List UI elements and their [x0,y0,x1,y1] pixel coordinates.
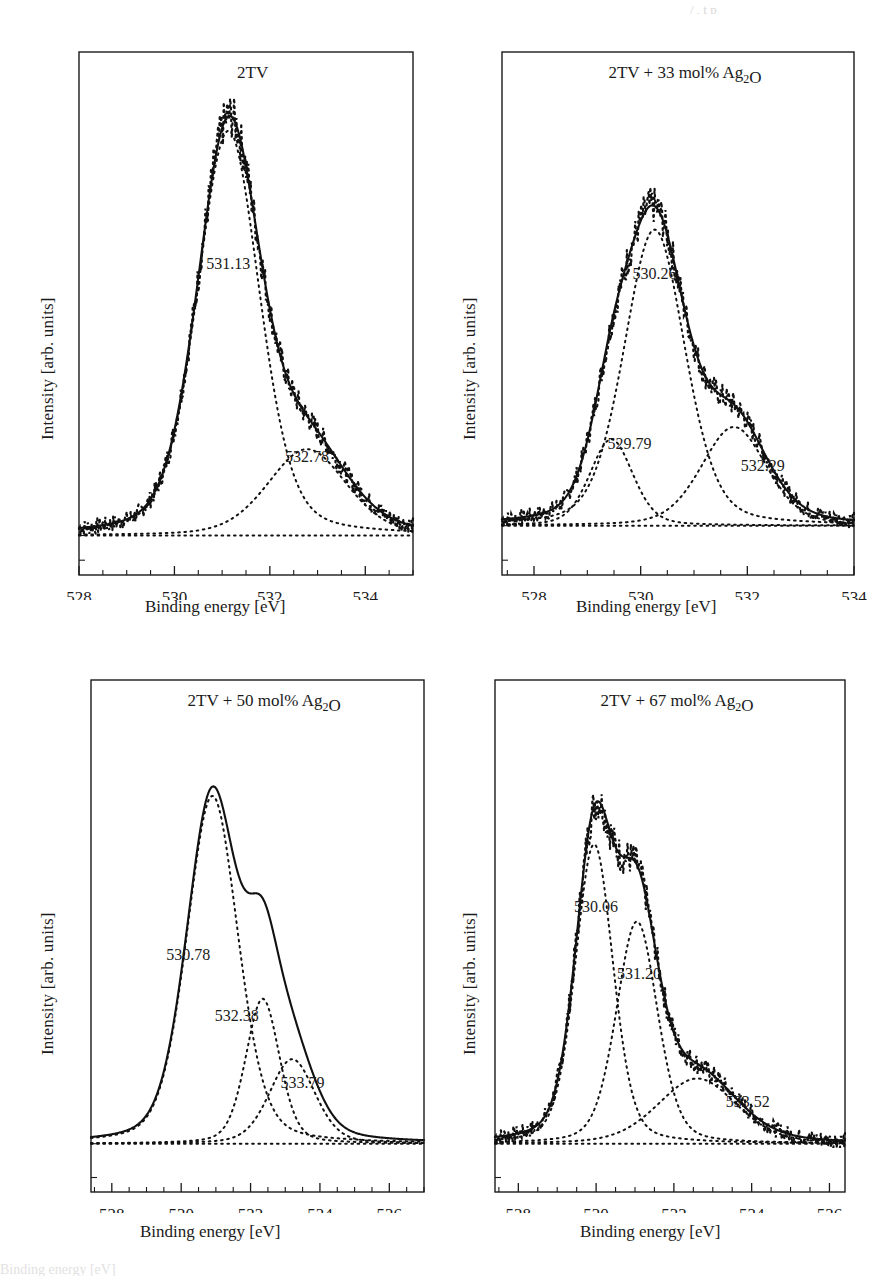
x-tick-label: 530 [168,1205,194,1213]
x-tick-label: 530 [583,1205,609,1213]
plot-frame [79,52,413,575]
plot-frame [502,52,854,575]
top-cropped-text: / , t p [690,2,890,14]
x-tick-label: 534 [841,588,867,600]
raw-data-trace [495,794,845,1148]
x-tick-label: 528 [66,588,92,600]
peak-label-2: 532.78 [285,448,329,465]
plot-frame [91,680,424,1192]
peak-label-1: 530.78 [166,946,210,963]
peak-label-2: 529.79 [607,435,651,452]
fit-envelope [91,786,424,1140]
x-tick-label: 534 [353,588,379,600]
peak-label-3: 532.29 [741,457,785,474]
peak-label-1: 530.26 [633,265,677,282]
panel-2tv-33: 5285305325342TV + 33 mol% Ag2O530.26529.… [440,40,880,600]
panel-2tv-67: 5285305325345362TV + 67 mol% Ag2O530.065… [440,668,880,1213]
panel-title: 2TV + 50 mol% Ag2O [188,691,341,715]
x-tick-label: 528 [521,588,547,600]
x-tick-label: 534 [307,1205,333,1213]
panel-3-ylabel: Intensity [arb. units] [38,912,58,1055]
panel-1-plot: 5285305325342TV531.13532.78 [18,40,428,600]
fit-component-1 [91,796,424,1142]
panel-4-xlabel: Binding energy [eV] [580,1222,720,1242]
bottom-cropped-caption: Binding energy [eV] [0,1262,500,1276]
panel-2tv: 5285305325342TV531.13532.78 [18,40,428,600]
fit-component-3 [91,1059,424,1143]
panel-2tv-50: 5285305325345362TV + 50 mol% Ag2O530.785… [18,668,428,1213]
panel-title: 2TV + 67 mol% Ag2O [600,691,753,715]
x-tick-label: 532 [735,588,761,600]
panel-3-xlabel: Binding energy [eV] [140,1222,280,1242]
panel-4-ylabel: Intensity [arb. units] [460,912,480,1055]
peak-label-3: 533.79 [281,1074,325,1091]
panel-2-ylabel: Intensity [arb. units] [460,297,480,440]
panel-title: 2TV + 33 mol% Ag2O [608,63,761,87]
panel-title: 2TV [237,63,269,82]
x-tick-label: 536 [377,1205,403,1213]
fit-envelope [495,801,845,1140]
x-tick-label: 536 [817,1205,843,1213]
fit-envelope [502,205,854,520]
xps-figure: / , t p 5285305325342TV531.13532.78 Inte… [0,0,894,1276]
panel-4-plot: 5285305325345362TV + 67 mol% Ag2O530.065… [440,668,880,1213]
peak-label-2: 532.38 [215,1007,259,1024]
fit-component-1 [79,131,413,531]
x-tick-label: 528 [506,1205,531,1213]
peak-label-1: 530.06 [574,898,618,915]
panel-1-ylabel: Intensity [arb. units] [38,297,58,440]
peak-label-1: 531.13 [206,255,250,272]
panel-3-plot: 5285305325345362TV + 50 mol% Ag2O530.785… [18,668,428,1213]
fit-component-1 [495,844,845,1143]
x-tick-label: 528 [99,1205,125,1213]
fit-component-2 [79,449,413,534]
x-tick-label: 532 [661,1205,687,1213]
peak-label-3: 533.52 [726,1093,770,1110]
panel-1-xlabel: Binding energy [eV] [145,597,285,617]
x-tick-label: 532 [238,1205,264,1213]
x-tick-label: 534 [739,1205,765,1213]
panel-2-xlabel: Binding energy [eV] [576,597,716,617]
raw-data-trace [502,187,854,527]
peak-label-2: 531.20 [617,965,661,982]
panel-2-plot: 5285305325342TV + 33 mol% Ag2O530.26529.… [440,40,880,600]
